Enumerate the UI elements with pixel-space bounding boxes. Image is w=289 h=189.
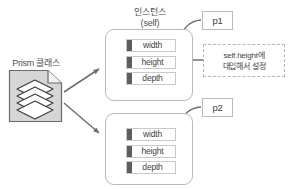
property-row-width[interactable]: width — [126, 39, 176, 52]
instance-tag-p2[interactable]: p2 — [202, 98, 233, 117]
instance-title-line2: (self) — [103, 18, 197, 29]
class-node-label: Prism 클래스 — [2, 56, 70, 69]
property-row-depth[interactable]: depth — [126, 72, 176, 85]
callout-line2: 대입해서 설정 — [223, 61, 266, 72]
annotation-callout: self.height에 대입해서 설정 — [203, 44, 285, 77]
property-name: height — [132, 146, 175, 157]
instance-box-p2[interactable]: width height depth — [105, 113, 193, 185]
instance-box-p1[interactable]: width height depth 속성 — [105, 29, 193, 101]
property-row-width[interactable]: width — [126, 128, 176, 141]
property-name: depth — [132, 162, 175, 173]
property-row-height[interactable]: height — [126, 56, 176, 69]
arrow-class-to-instance-1 — [64, 69, 99, 92]
property-name: width — [132, 40, 175, 51]
property-name: depth — [132, 73, 175, 84]
arrow-class-to-instance-2 — [64, 103, 99, 133]
property-list: width height depth — [126, 128, 176, 178]
instance-title-line1: 인스턴스 — [134, 7, 165, 17]
property-row-height[interactable]: height — [126, 145, 176, 158]
property-name: height — [132, 57, 175, 68]
diagram-canvas: Prism 클래스 인스턴스 (self) width height depth… — [0, 0, 289, 189]
property-list: width height depth — [126, 39, 176, 89]
property-row-depth[interactable]: depth — [126, 161, 176, 174]
property-name: width — [132, 129, 175, 140]
class-document-icon — [10, 71, 62, 122]
callout-line1: self.height에 — [223, 50, 264, 61]
instance-tag-p1[interactable]: p1 — [202, 11, 233, 30]
instance-title: 인스턴스 (self) — [103, 7, 197, 28]
